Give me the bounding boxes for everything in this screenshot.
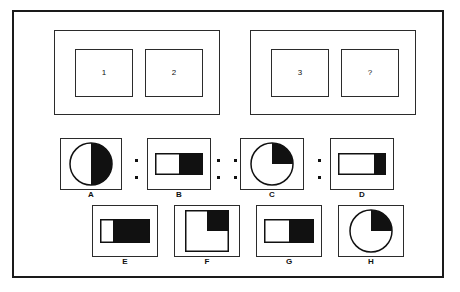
figure-a-shape [61, 139, 121, 189]
option-g-shape [257, 206, 321, 256]
proportion-dot-row [217, 159, 237, 162]
term-cell-1-label: 1 [102, 69, 106, 77]
proportion-dot-icon [234, 176, 237, 179]
option-g-caption: G [257, 257, 321, 267]
circle-right-half-filled-icon [68, 141, 114, 187]
proportion-dot-icon [217, 176, 220, 179]
ratio-dot-icon [318, 159, 321, 162]
figure-c-caption: C [241, 190, 303, 200]
figure-panel-a[interactable]: A [60, 138, 122, 190]
puzzle-frame: 1 2 3 ? A [12, 10, 444, 278]
circle-upper-right-quadrant-filled-icon [249, 141, 295, 187]
term-cell-2[interactable]: 2 [145, 49, 203, 97]
rectangle-right-three-quarters-filled-icon [100, 219, 150, 243]
figure-b-caption: B [148, 190, 210, 200]
figure-panel-b[interactable]: B [147, 138, 211, 190]
option-h-caption: H [339, 257, 403, 267]
figure-panel-c[interactable]: C [240, 138, 304, 190]
option-f-shape [175, 206, 239, 256]
option-f-caption: F [175, 257, 239, 267]
figure-d-shape [331, 139, 393, 189]
option-panel-h[interactable]: H [338, 205, 404, 257]
rectangle-right-quarter-filled-icon [338, 153, 386, 175]
square-upper-right-quadrant-filled-icon [185, 210, 229, 252]
ratio-separator-left [129, 152, 143, 186]
ratio-dot-icon [318, 176, 321, 179]
option-panel-e[interactable]: E [92, 205, 158, 257]
ratio-dot-icon [135, 159, 138, 162]
term-cell-1[interactable]: 1 [75, 49, 133, 97]
ratio-dot-icon [135, 176, 138, 179]
rectangle-right-half-filled-icon [155, 153, 203, 175]
option-panel-f[interactable]: F [174, 205, 240, 257]
option-panel-g[interactable]: G [256, 205, 322, 257]
term-cell-3-label: 3 [298, 69, 302, 77]
figure-panel-d[interactable]: D [330, 138, 394, 190]
proportion-separator [210, 152, 244, 186]
term-group-right: 3 ? [250, 30, 416, 115]
term-cell-3[interactable]: 3 [271, 49, 329, 97]
figure-b-shape [148, 139, 210, 189]
figure-a-caption: A [61, 190, 121, 200]
ratio-separator-right [312, 152, 326, 186]
circle-upper-right-quadrant-filled-icon [348, 208, 394, 254]
term-group-left: 1 2 [54, 30, 220, 115]
proportion-dot-icon [217, 159, 220, 162]
option-h-shape [339, 206, 403, 256]
figure-c-shape [241, 139, 303, 189]
option-e-caption: E [93, 257, 157, 267]
figure-d-caption: D [331, 190, 393, 200]
term-cell-question[interactable]: ? [341, 49, 399, 97]
term-cell-2-label: 2 [172, 69, 176, 77]
proportion-dot-icon [234, 159, 237, 162]
rectangle-right-half-filled-icon [264, 219, 314, 243]
option-e-shape [93, 206, 157, 256]
term-cell-question-label: ? [368, 69, 372, 77]
proportion-dot-row [217, 176, 237, 179]
